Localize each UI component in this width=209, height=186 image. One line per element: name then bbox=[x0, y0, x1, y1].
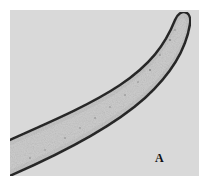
micrograph-image bbox=[10, 10, 199, 176]
tube-cytoplasm bbox=[10, 19, 186, 172]
tube-cell-drawing bbox=[10, 10, 199, 176]
panel-label: A bbox=[155, 151, 164, 166]
